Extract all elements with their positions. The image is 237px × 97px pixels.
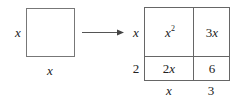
grid-row-label-1: x bbox=[131, 26, 141, 39]
grid-cell-2x: 2x bbox=[155, 62, 183, 75]
grid-cell-6: 6 bbox=[198, 62, 226, 75]
left-square-side-label: x bbox=[13, 26, 23, 39]
variable-x: x bbox=[169, 61, 175, 76]
exponent: 2 bbox=[171, 24, 175, 33]
diagram-canvas bbox=[0, 0, 237, 97]
left-square bbox=[27, 9, 75, 57]
grid-col-label-2: 3 bbox=[205, 84, 217, 97]
grid-cell-3x: 3x bbox=[198, 26, 226, 39]
grid-row-label-2: 2 bbox=[131, 62, 141, 75]
left-square-bottom-label: x bbox=[44, 64, 56, 77]
grid-cell-x-squared: x2 bbox=[158, 26, 182, 39]
arrow-head-icon bbox=[117, 30, 124, 36]
variable-x: x bbox=[212, 25, 218, 40]
grid-col-label-1: x bbox=[163, 84, 175, 97]
